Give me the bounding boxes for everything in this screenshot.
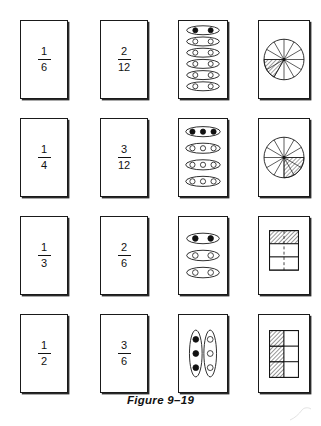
fraction-card: 3 6: [100, 314, 148, 393]
fraction-card: 1 2: [20, 314, 68, 393]
fraction-display: 1 2: [38, 340, 51, 367]
rectangle-grid-diagram: [259, 315, 309, 392]
fraction-bar: [38, 59, 51, 60]
fraction-numerator: 3: [121, 144, 127, 156]
fraction-card: 2 6: [100, 216, 148, 295]
fraction-numerator: 3: [121, 340, 127, 352]
figure-container: 1 6 2 12: [0, 0, 321, 426]
fraction-card: 1 6: [20, 20, 68, 99]
fraction-display: 1 3: [38, 242, 51, 269]
fraction-bar: [38, 157, 51, 158]
region-model-card: [258, 216, 310, 295]
fraction-bar: [118, 157, 131, 158]
fraction-card: 2 12: [100, 20, 148, 99]
figure-caption: Figure 9–19: [0, 394, 321, 406]
set-model-card: [178, 314, 228, 393]
fraction-denominator: 4: [41, 159, 47, 171]
set-model-card: [178, 20, 228, 99]
ellipse-groups-diagram: [179, 217, 227, 294]
figure-row: 1 6 2 12: [0, 18, 321, 116]
fraction-numerator: 1: [41, 340, 47, 352]
circle-sectors-diagram: [259, 119, 309, 196]
page-scan-artifact: [289, 406, 315, 422]
fraction-bar: [118, 59, 131, 60]
fraction-numerator: 2: [121, 46, 127, 58]
fraction-bar: [38, 353, 51, 354]
fraction-bar: [38, 255, 51, 256]
fraction-denominator: 6: [121, 257, 127, 269]
region-model-card: [258, 314, 310, 393]
fraction-numerator: 2: [121, 242, 127, 254]
fraction-display: 3 12: [118, 144, 131, 171]
figure-row: 1 3 2 6: [0, 214, 321, 312]
circle-sectors-diagram: [259, 21, 309, 98]
ellipse-groups-diagram: [179, 119, 227, 196]
fraction-card: 1 4: [20, 118, 68, 197]
card-grid: 1 6 2 12: [0, 18, 321, 410]
fraction-denominator: 3: [41, 257, 47, 269]
fraction-card: 3 12: [100, 118, 148, 197]
set-model-card: [178, 216, 228, 295]
set-model-card: [178, 118, 228, 197]
fraction-denominator: 6: [121, 355, 127, 367]
figure-row: 1 4 3 12: [0, 116, 321, 214]
region-model-card: [258, 20, 310, 99]
fraction-display: 3 6: [118, 340, 131, 367]
fraction-numerator: 1: [41, 46, 47, 58]
fraction-denominator: 12: [118, 159, 130, 171]
fraction-numerator: 1: [41, 242, 47, 254]
fraction-bar: [118, 353, 131, 354]
fraction-display: 1 4: [38, 144, 51, 171]
rectangle-grid-diagram: [259, 217, 309, 294]
fraction-denominator: 12: [118, 61, 130, 73]
ellipse-groups-diagram: [179, 21, 227, 98]
fraction-bar: [118, 255, 131, 256]
fraction-card: 1 3: [20, 216, 68, 295]
fraction-display: 2 12: [118, 46, 131, 73]
fraction-denominator: 6: [41, 61, 47, 73]
fraction-display: 2 6: [118, 242, 131, 269]
ellipse-groups-diagram: [179, 315, 227, 392]
region-model-card: [258, 118, 310, 197]
fraction-denominator: 2: [41, 355, 47, 367]
fraction-numerator: 1: [41, 144, 47, 156]
fraction-display: 1 6: [38, 46, 51, 73]
